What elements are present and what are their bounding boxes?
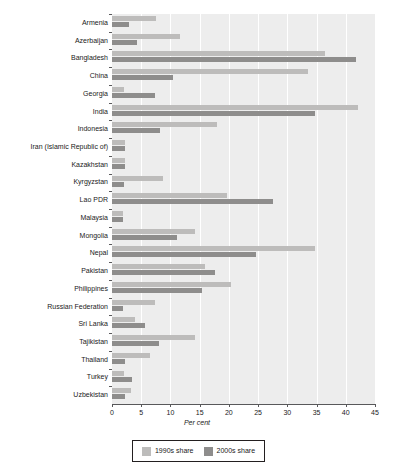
x-axis-title: Per cent (0, 419, 394, 426)
y-axis-tick (109, 120, 112, 121)
bar-row (112, 67, 375, 85)
bar-2000s (112, 199, 273, 204)
bar-row (112, 103, 375, 121)
legend-swatch (204, 447, 213, 456)
bar-1990s (112, 388, 131, 393)
bar-1990s (112, 264, 205, 269)
gridline (375, 14, 376, 404)
bar-1990s (112, 158, 125, 163)
bar-1990s (112, 300, 155, 305)
y-axis-tick (109, 244, 112, 245)
y-axis-tick (109, 369, 112, 370)
category-label: India (93, 108, 108, 116)
bar-2000s (112, 217, 123, 222)
bar-row (112, 227, 375, 245)
bar-1990s (112, 87, 124, 92)
bar-row (112, 280, 375, 298)
y-axis-tick (109, 333, 112, 334)
chart-legend: 1990s share2000s share (132, 440, 265, 462)
bar-2000s (112, 270, 215, 275)
bar-2000s (112, 235, 177, 240)
bar-1990s (112, 317, 135, 322)
bar-row (112, 49, 375, 67)
bar-1990s (112, 353, 150, 358)
bar-row (112, 262, 375, 280)
y-axis-tick (109, 138, 112, 139)
x-axis-tick (229, 404, 230, 407)
y-axis-tick (109, 298, 112, 299)
y-axis-tick (109, 156, 112, 157)
bar-row (112, 191, 375, 209)
y-axis-tick (109, 280, 112, 281)
x-axis-tick (346, 404, 347, 407)
bar-2000s (112, 359, 125, 364)
x-axis-tick-label: 0 (110, 409, 114, 417)
bar-1990s (112, 69, 308, 74)
x-axis-tick (375, 404, 376, 407)
bar-1990s (112, 246, 315, 251)
bar-2000s (112, 252, 256, 257)
category-label: Indonesia (78, 125, 108, 133)
bar-2000s (112, 323, 145, 328)
legend-item: 1990s share (142, 447, 194, 456)
bar-row (112, 298, 375, 316)
category-label: Iran (Islamic Republic of) (31, 143, 108, 151)
y-axis-tick (109, 227, 112, 228)
category-label: Lao PDR (80, 196, 108, 204)
y-axis-tick (109, 67, 112, 68)
bar-2000s (112, 341, 159, 346)
legend-swatch (142, 447, 151, 456)
legend-item: 2000s share (204, 447, 256, 456)
bar-2000s (112, 75, 173, 80)
x-axis-tick (258, 404, 259, 407)
bar-1990s (112, 211, 123, 216)
category-label: Kazakhstan (71, 161, 108, 169)
x-axis-tick (200, 404, 201, 407)
y-axis-tick (109, 85, 112, 86)
bar-row (112, 244, 375, 262)
bar-row (112, 120, 375, 138)
bar-row (112, 315, 375, 333)
bar-2000s (112, 306, 123, 311)
x-axis-tick-label: 20 (225, 409, 233, 417)
x-axis-tick (317, 404, 318, 407)
bar-1990s (112, 122, 217, 127)
x-axis-tick-label: 30 (283, 409, 291, 417)
bar-1990s (112, 193, 227, 198)
y-axis-tick (109, 32, 112, 33)
bar-2000s (112, 128, 160, 133)
bar-row (112, 14, 375, 32)
x-axis-tick (141, 404, 142, 407)
bar-2000s (112, 377, 132, 382)
bar-2000s (112, 57, 356, 62)
x-axis-tick-label: 5 (139, 409, 143, 417)
y-axis-tick (109, 315, 112, 316)
bar-2000s (112, 111, 315, 116)
category-label: Sri Lanka (78, 320, 108, 328)
plot-area (112, 14, 375, 404)
bar-1990s (112, 282, 231, 287)
bar-row (112, 209, 375, 227)
bar-1990s (112, 229, 195, 234)
category-label: Russian Federation (47, 303, 108, 311)
category-label: Pakistan (81, 267, 108, 275)
bar-2000s (112, 146, 125, 151)
bar-row (112, 32, 375, 50)
bar-2000s (112, 164, 125, 169)
x-axis-tick-label: 10 (167, 409, 175, 417)
bar-1990s (112, 105, 358, 110)
y-axis-tick (109, 103, 112, 104)
bar-1990s (112, 371, 124, 376)
x-axis-tick-label: 25 (254, 409, 262, 417)
bar-1990s (112, 51, 325, 56)
y-axis-tick (109, 49, 112, 50)
y-axis-tick (109, 351, 112, 352)
category-axis-labels: ArmeniaAzerbaijanBangladeshChinaGeorgiaI… (0, 14, 108, 404)
bar-2000s (112, 93, 155, 98)
bar-row (112, 174, 375, 192)
category-label: Bangladesh (71, 54, 108, 62)
bar-row (112, 351, 375, 369)
x-axis-tick-label: 40 (342, 409, 350, 417)
bar-1990s (112, 176, 163, 181)
bar-2000s (112, 40, 137, 45)
